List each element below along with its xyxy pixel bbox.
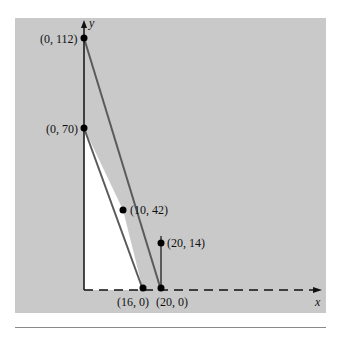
label-20-14: (20, 14) [167, 236, 205, 250]
label-16-0: (16, 0) [117, 295, 149, 309]
label-20-0: (20, 0) [156, 295, 188, 309]
point-0-70 [81, 125, 88, 132]
label-0-112: (0, 112) [40, 32, 78, 46]
point-0-112 [81, 35, 88, 42]
y-axis-arrow-icon [81, 20, 87, 28]
label-10-42: (10, 42) [130, 203, 168, 217]
x-axis-arrow-icon [313, 287, 322, 293]
x-axis-label: x [314, 295, 321, 309]
point-20-14 [158, 240, 165, 247]
point-20-0 [158, 285, 165, 292]
chart-svg: y x (0, 112) (0, 70) (10, 42) (20, 14) (… [0, 0, 340, 341]
label-0-70: (0, 70) [46, 122, 78, 136]
y-axis-label: y [88, 16, 95, 30]
point-16-0 [140, 285, 147, 292]
point-10-42 [120, 207, 127, 214]
